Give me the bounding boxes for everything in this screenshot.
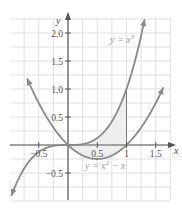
curve-label-quadratic-base: y = x xyxy=(84,160,106,171)
x-tick-label: 1 xyxy=(124,149,129,159)
x-tick-label: −0.5 xyxy=(30,149,47,159)
y-axis-label: y xyxy=(55,15,61,26)
x-tick-label: 1.5 xyxy=(150,149,162,159)
ticks: −0.50.511.5−0.50.51.01.52.0 xyxy=(30,29,162,179)
curve-label-cubic: y = x3 xyxy=(109,33,135,45)
x-axis-label: x xyxy=(173,145,179,156)
curve-label-cubic-sup: 3 xyxy=(130,33,135,41)
axes xyxy=(10,12,176,200)
chart: −0.50.511.5−0.50.51.01.52.0 x y y = x3 y… xyxy=(0,0,182,208)
y-axis-arrow xyxy=(65,12,71,20)
curve-arrowhead xyxy=(11,189,17,197)
y-tick-label: 2.0 xyxy=(51,29,63,39)
y-tick-label: 0.5 xyxy=(51,113,63,123)
curve-label-quadratic: y = x2 − x xyxy=(84,159,126,171)
x-tick-label: 0.5 xyxy=(91,149,103,159)
y-tick-label: 1.0 xyxy=(51,85,63,95)
grid xyxy=(10,18,170,201)
y-tick-label: −0.5 xyxy=(46,169,63,179)
y-tick-label: 1.5 xyxy=(51,57,63,67)
curve-label-quadratic-tail: − x xyxy=(109,160,126,171)
curve-label-cubic-base: y = x xyxy=(109,34,131,45)
